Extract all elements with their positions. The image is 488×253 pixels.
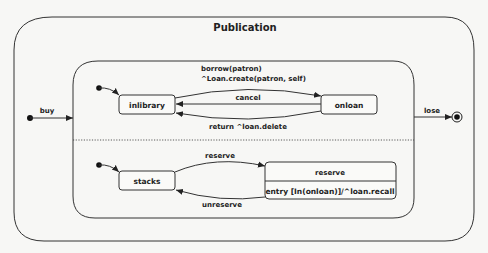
state-reserve[interactable]: reserve entry [In(onloan)]/^loan.recall: [265, 162, 396, 199]
publication-state: [14, 17, 230, 241]
state-diagram: Publication buy lose inlibrary onloan bo…: [0, 0, 488, 253]
unreserve-transition-label: unreserve: [202, 201, 242, 209]
region2-initial-transition: [99, 165, 119, 172]
reserve-transition: [175, 162, 265, 172]
state-stacks[interactable]: stacks: [119, 171, 175, 190]
state-stacks-label: stacks: [133, 177, 161, 186]
borrow-label-line2: ^Loan.create(patron, self): [201, 75, 306, 83]
buy-label: buy: [40, 107, 55, 115]
final-state-dot: [454, 114, 460, 120]
unreserve-transition: [176, 190, 265, 199]
region1-initial-transition: [99, 88, 119, 95]
lose-label: lose: [424, 107, 440, 115]
borrow-label-line1: borrow(patron): [201, 65, 262, 73]
state-onloan-label: onloan: [335, 101, 364, 110]
state-inlibrary-label: inlibrary: [129, 101, 165, 110]
return-label: return ^loan.delete: [209, 123, 287, 131]
reserve-entry-action: entry [In(onloan)]/^loan.recall: [265, 187, 394, 196]
state-reserve-label: reserve: [315, 169, 345, 177]
state-inlibrary[interactable]: inlibrary: [119, 95, 175, 114]
reserve-transition-label: reserve: [205, 152, 235, 160]
publication-title: Publication: [213, 22, 276, 33]
cancel-label: cancel: [235, 94, 260, 102]
return-transition: [176, 111, 321, 119]
state-onloan[interactable]: onloan: [321, 95, 377, 114]
